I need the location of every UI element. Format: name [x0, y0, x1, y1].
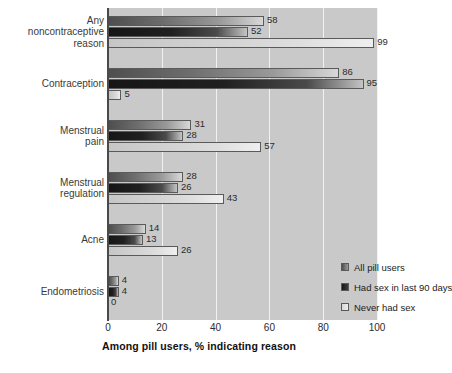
category-label-4: Acne	[0, 234, 104, 246]
bar-2-1[interactable]	[108, 90, 121, 100]
bar-row: 57	[108, 142, 377, 152]
y-axis-line	[107, 8, 109, 321]
bar-value-label: 43	[227, 192, 238, 204]
bar-1-4[interactable]	[108, 235, 143, 245]
bar-row: 13	[108, 235, 377, 245]
bar-0-5[interactable]	[108, 276, 119, 286]
bar-2-2[interactable]	[108, 142, 261, 152]
legend-label-all-pill-users: All pill users	[354, 262, 405, 273]
bar-value-label: 58	[267, 14, 278, 26]
bar-value-label: 4	[122, 285, 127, 297]
bar-row: 99	[108, 38, 377, 48]
category-label-0: Any noncontraceptive reason	[0, 15, 104, 50]
bar-row: 4	[108, 287, 377, 297]
x-tick-80: 80	[318, 322, 329, 333]
bar-value-label: 28	[186, 129, 197, 141]
bar-row: 28	[108, 131, 377, 141]
bar-value-label: 57	[264, 140, 275, 152]
bar-1-3[interactable]	[108, 183, 178, 193]
bar-row: 52	[108, 27, 377, 37]
legend-item-never-had-sex[interactable]: Never had sex	[341, 299, 452, 315]
plot-area: 58529986955312857282643141326440 All pil…	[108, 8, 377, 320]
bar-2-3[interactable]	[108, 194, 224, 204]
category-label-2: Menstrual pain	[0, 125, 104, 148]
bar-0-0[interactable]	[108, 16, 264, 26]
legend-swatch-icon-all-pill-users	[341, 263, 349, 271]
bar-row: 31	[108, 120, 377, 130]
bar-1-2[interactable]	[108, 131, 183, 141]
legend-item-all-pill-users[interactable]: All pill users	[341, 259, 452, 275]
bar-value-label: 0	[111, 296, 116, 308]
bar-row: 26	[108, 183, 377, 193]
bar-value-label: 26	[181, 181, 192, 193]
category-label-5: Endometriosis	[0, 286, 104, 298]
category-label-3: Menstrual regulation	[0, 177, 104, 200]
gridline-80	[323, 8, 324, 320]
bar-row: 28	[108, 172, 377, 182]
legend-swatch-icon-never-had-sex	[341, 303, 349, 311]
bar-0-2[interactable]	[108, 120, 191, 130]
bar-0-1[interactable]	[108, 68, 339, 78]
bar-2-0[interactable]	[108, 38, 374, 48]
bar-value-label: 86	[342, 66, 353, 78]
bar-row: 95	[108, 79, 377, 89]
bar-0-4[interactable]	[108, 224, 146, 234]
x-tick-60: 60	[264, 322, 275, 333]
bar-1-1[interactable]	[108, 79, 364, 89]
legend-item-had-sex-in-last-90-days[interactable]: Had sex in last 90 days	[341, 279, 452, 295]
category-label-1: Contraception	[0, 78, 104, 90]
bar-value-label: 52	[251, 25, 262, 37]
bar-value-label: 26	[181, 244, 192, 256]
legend-swatch-icon-had-sex-in-last-90-days	[341, 283, 349, 291]
bar-2-4[interactable]	[108, 246, 178, 256]
legend-label-never-had-sex: Never had sex	[354, 302, 415, 313]
legend-label-had-sex-in-last-90-days: Had sex in last 90 days	[354, 282, 452, 293]
bar-1-0[interactable]	[108, 27, 248, 37]
x-tick-100: 100	[369, 322, 386, 333]
bar-row: 86	[108, 68, 377, 78]
bar-row: 43	[108, 194, 377, 204]
bar-row: 0	[108, 298, 377, 308]
gridline-60	[269, 8, 270, 320]
bar-row: 4	[108, 276, 377, 286]
bar-value-label: 95	[367, 77, 378, 89]
gridline-40	[216, 8, 217, 320]
bar-row: 5	[108, 90, 377, 100]
chart-legend: All pill users Had sex in last 90 days N…	[341, 259, 452, 319]
x-tick-0: 0	[105, 322, 111, 333]
bar-row: 26	[108, 246, 377, 256]
gridline-20	[162, 8, 163, 320]
x-axis-title: Among pill users, % indicating reason	[0, 340, 398, 352]
bar-0-3[interactable]	[108, 172, 183, 182]
bar-row: 58	[108, 16, 377, 26]
bar-value-label: 13	[146, 233, 157, 245]
bar-value-label: 5	[124, 88, 129, 100]
x-tick-20: 20	[156, 322, 167, 333]
x-tick-40: 40	[210, 322, 221, 333]
bar-value-label: 99	[377, 36, 388, 48]
